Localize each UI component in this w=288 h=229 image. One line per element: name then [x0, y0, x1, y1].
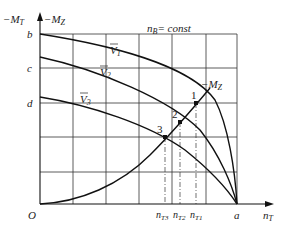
curve-label-v1: V1: [110, 44, 121, 58]
curve-load-mz: [40, 88, 210, 204]
drop-lines: [165, 103, 196, 204]
curves: [40, 34, 237, 204]
title: nB= const: [147, 22, 192, 36]
x-end-label: a: [234, 209, 240, 221]
curve-v1: [40, 34, 237, 204]
marker-nt3: nT3: [156, 209, 169, 222]
y-label-left: −MT: [3, 13, 25, 27]
svg-text:V3: V3: [80, 93, 91, 107]
tick-b: b: [27, 28, 33, 40]
y-label-right: −MZ: [44, 13, 66, 27]
turbine-characteristic-diagram: −MT −MZ nB= const b c d V1 V2 V3 −MZ 1 2…: [0, 0, 288, 229]
point-2-label: 2: [172, 108, 178, 120]
svg-text:V1: V1: [110, 44, 121, 58]
tick-c: c: [27, 62, 32, 74]
axes: [40, 16, 270, 204]
point-3-label: 3: [157, 123, 163, 135]
marker-nt1: nT1: [190, 209, 202, 222]
curve-v3: [40, 97, 237, 204]
load-curve-label: −MZ: [201, 78, 223, 92]
origin-label: O: [28, 209, 36, 221]
grid: [40, 34, 237, 204]
point-1-label: 1: [191, 89, 197, 101]
marker-nt2: nT2: [173, 209, 186, 222]
x-axis-arrow-icon: [265, 201, 274, 207]
tick-d: d: [27, 97, 33, 109]
y-axis-arrow-icon: [37, 12, 43, 21]
x-axis-label: nT: [263, 209, 274, 223]
curve-label-v3: V3: [80, 93, 91, 107]
